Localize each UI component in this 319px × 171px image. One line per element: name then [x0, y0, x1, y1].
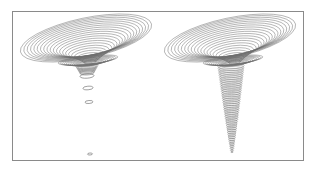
detached-ring	[87, 153, 92, 155]
tail-ring	[229, 144, 234, 146]
right-funnel	[160, 5, 299, 153]
detached-ring	[85, 100, 93, 104]
tail-ring	[226, 120, 238, 124]
left-funnel	[16, 5, 155, 156]
tail-ring	[231, 151, 233, 152]
tail-ring	[230, 149, 233, 150]
funnel-plots	[0, 0, 319, 171]
tail-ring	[221, 90, 241, 96]
tail-ring	[230, 148, 234, 150]
funnel-diagram	[0, 0, 319, 171]
tail-ring	[230, 146, 234, 148]
tail-ring	[229, 142, 235, 144]
tail-ring	[221, 88, 241, 94]
detached-ring	[83, 86, 93, 90]
